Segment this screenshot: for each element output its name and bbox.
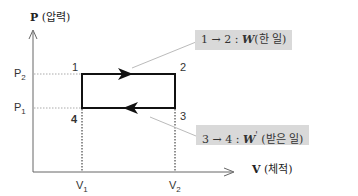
pv-diagram (0, 0, 358, 196)
point-2-label: 2 (180, 62, 186, 73)
leader-line-bottom (150, 117, 196, 136)
x-axis-symbol: V (252, 163, 261, 176)
leader-line-top (132, 42, 196, 68)
callout-symbol: W (243, 133, 255, 146)
x-axis-title: V (체적) (252, 164, 293, 175)
v2-tick-label: V2 (169, 180, 181, 194)
callout-process: 3 → 4 : (202, 133, 239, 146)
point-4-label: 4 (71, 114, 77, 125)
callout-prime: ' (255, 129, 258, 140)
y-axis-symbol: P (30, 11, 38, 24)
cycle-rectangle (82, 74, 175, 108)
y-axis-title: P (압력) (30, 12, 70, 23)
x-axis-label: (체적) (264, 163, 293, 176)
point-1-label: 1 (72, 62, 78, 73)
callout-symbol: W (242, 33, 254, 46)
p1-tick-label: P1 (14, 102, 26, 116)
callout-process: 1 → 2 : (201, 33, 238, 46)
p2-tick-label: P2 (14, 68, 26, 82)
y-axis-label: (압력) (42, 11, 71, 24)
callout-work-done: 1 → 2 : W(한 일) (195, 30, 292, 50)
point-3-label: 3 (180, 111, 186, 122)
v1-tick-label: V1 (76, 180, 88, 194)
callout-desc: (받은 일) (261, 133, 303, 146)
callout-desc: (한 일) (254, 33, 286, 46)
callout-work-received: 3 → 4 : W' (받은 일) (196, 125, 309, 145)
